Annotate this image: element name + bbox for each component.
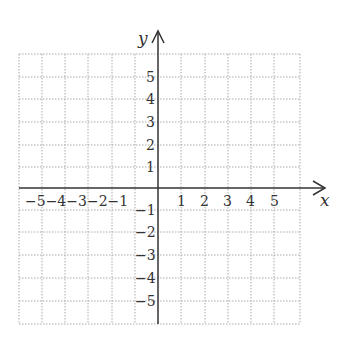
- x-tick: 2: [200, 193, 209, 209]
- y-tick: 1: [146, 159, 155, 175]
- y-tick: −1: [135, 202, 156, 218]
- x-tick: 5: [270, 193, 279, 209]
- x-tick: 3: [223, 193, 232, 209]
- y-tick: 3: [146, 114, 155, 130]
- y-tick: −5: [135, 293, 156, 309]
- y-tick: 2: [146, 137, 155, 153]
- y-tick: −2: [135, 224, 156, 240]
- y-tick: −3: [135, 247, 156, 263]
- coordinate-plane: x y −5−4−3−2−1 1 2 3 4 5 5 4 3 2 1 −1 −2…: [0, 0, 343, 342]
- y-axis-label: y: [137, 28, 148, 48]
- y-tick: 4: [146, 91, 155, 107]
- grid: [19, 54, 300, 324]
- x-tick: 4: [246, 193, 255, 209]
- x-tick-negative: −5−4−3−2−1: [25, 193, 128, 209]
- x-tick: 1: [177, 193, 186, 209]
- y-tick: −4: [135, 270, 156, 286]
- x-axis-label: x: [320, 190, 330, 210]
- y-tick: 5: [146, 69, 155, 85]
